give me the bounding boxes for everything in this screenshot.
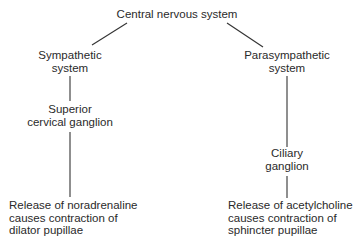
sympathetic-effect-line2: causes contraction of [9, 212, 138, 225]
root-to-parasympathetic-line [227, 23, 263, 47]
parasympathetic-ganglion-line1: Ciliary [265, 147, 308, 160]
root-to-sympathetic-line [92, 23, 127, 45]
sympathetic-effect-line3: dilator pupillae [9, 224, 138, 237]
parasympathetic-label-line2: system [244, 62, 330, 75]
root-node-central-nervous-system: Central nervous system [117, 8, 238, 21]
root-label: Central nervous system [117, 8, 238, 21]
parasympathetic-effect-line1: Release of acetylcholine [228, 199, 353, 212]
sympathetic-ganglion-line2: cervical ganglion [27, 116, 113, 129]
parasympathetic-effect-line2: causes contraction of [228, 212, 353, 225]
sympathetic-label-line2: system [38, 62, 101, 75]
sympathetic-system-node: Sympathetic system [38, 49, 101, 74]
ciliary-ganglion-node: Ciliary ganglion [265, 147, 308, 172]
sympathetic-effect-node: Release of noradrenaline causes contract… [9, 199, 138, 237]
sympathetic-effect-line1: Release of noradrenaline [9, 199, 138, 212]
parasympathetic-effect-node: Release of acetylcholine causes contract… [228, 199, 353, 237]
parasympathetic-label-line1: Parasympathetic [244, 49, 330, 62]
parasympathetic-ganglion-line2: ganglion [265, 160, 308, 173]
parasympathetic-effect-line3: sphincter pupillae [228, 224, 353, 237]
superior-cervical-ganglion-node: Superior cervical ganglion [27, 103, 113, 128]
parasympathetic-system-node: Parasympathetic system [244, 49, 330, 74]
sympathetic-label-line1: Sympathetic [38, 49, 101, 62]
sympathetic-ganglion-line1: Superior [27, 103, 113, 116]
